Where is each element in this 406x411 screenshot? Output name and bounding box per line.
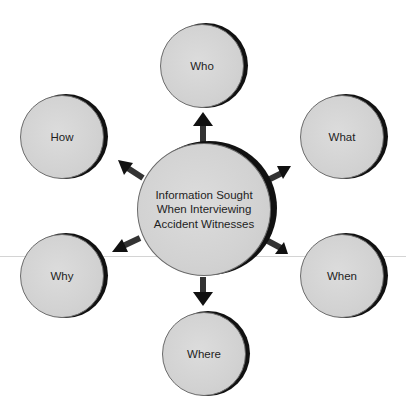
arrow-to-who xyxy=(193,112,213,142)
node-who-label: Who xyxy=(160,24,244,108)
node-where-label: Where xyxy=(162,312,246,396)
arrow-to-where xyxy=(193,277,213,306)
arrow-to-when xyxy=(266,240,288,254)
center-node-label: Information Sought When Interviewing Acc… xyxy=(137,143,271,276)
node-how-label: How xyxy=(20,95,104,179)
node-why-label: Why xyxy=(20,234,104,318)
node-when-label: When xyxy=(300,234,384,318)
arrow-to-why xyxy=(112,238,140,252)
node-what-label: What xyxy=(300,95,384,179)
arrow-to-how xyxy=(118,160,143,178)
